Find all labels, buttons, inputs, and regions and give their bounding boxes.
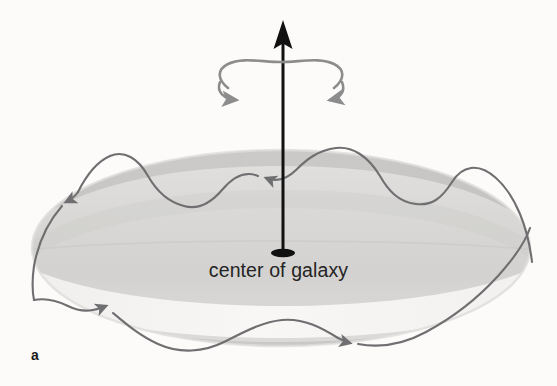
center-of-galaxy-label: center of galaxy <box>0 259 557 282</box>
rotation-arc-front-left <box>219 82 236 100</box>
rotation-direction-arc <box>219 60 343 100</box>
diagram-canvas <box>0 0 557 386</box>
panel-label-a: a <box>31 347 39 363</box>
rotation-arc-back <box>220 60 343 88</box>
galaxy-disk-diagram: center of galaxy a <box>0 0 557 386</box>
galactic-center-dot <box>271 249 295 257</box>
